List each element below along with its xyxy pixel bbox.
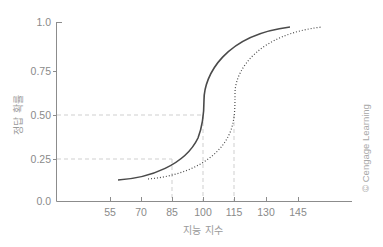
y-tick-label: 0.50 xyxy=(31,109,52,121)
copyright-credit: © Cengage Learning xyxy=(360,104,371,192)
x-tick-label: 85 xyxy=(166,206,178,218)
x-tick-labels: 55 70 85 100 115 130 145 xyxy=(104,206,307,218)
reference-lines xyxy=(57,115,234,201)
x-tick-label: 145 xyxy=(289,206,307,218)
x-tick-label: 70 xyxy=(135,206,147,218)
solid-curve xyxy=(118,27,290,180)
x-axis-title: 지능 지수 xyxy=(183,225,222,236)
x-tick-label: 55 xyxy=(104,206,116,218)
x-tick-label: 100 xyxy=(194,206,212,218)
y-axis-title: 정답 확률 xyxy=(13,95,24,134)
y-tick-label: 1.0 xyxy=(36,16,51,28)
y-tick-label: 0.0 xyxy=(36,195,51,207)
x-tick-label: 130 xyxy=(257,206,275,218)
x-tick-label: 115 xyxy=(226,206,243,218)
chart: 1.0 0.75 0.50 0.25 0.0 55 70 85 100 115 … xyxy=(0,0,383,247)
y-tick-label: 0.25 xyxy=(31,153,52,165)
y-tick-label: 0.75 xyxy=(31,65,52,77)
y-tick-labels: 1.0 0.75 0.50 0.25 0.0 xyxy=(31,16,52,207)
dotted-curve xyxy=(148,27,322,179)
